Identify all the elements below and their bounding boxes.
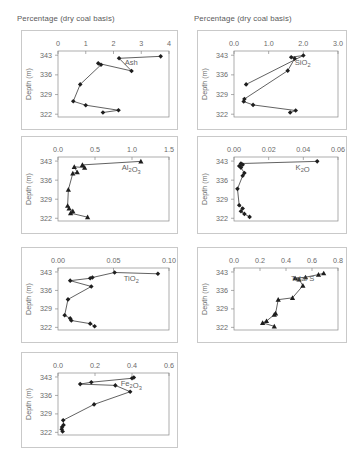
x-tick-label: 0.5 [90, 145, 100, 154]
y-tick-label: 336 [40, 176, 52, 185]
y-tick-label: 343 [40, 157, 52, 166]
x-tick-label: 0.04 [296, 145, 310, 154]
y-axis-title: Depth (m) [24, 388, 33, 420]
data-point [101, 110, 106, 115]
chart-panel-fe2o3: 0.00.20.40.6322329336343Depth (m)Fe2O3 [21, 352, 178, 448]
column-header-right: Percentage (dry coal basis) [194, 14, 292, 23]
data-point [315, 159, 320, 164]
chart-panel-ash: 01234322329336343Depth (m)Ash [21, 30, 178, 130]
chart-svg-al2o3: 0.00.51.01.5322329336343Depth (m)Al2O3 [22, 137, 177, 233]
y-tick-label: 343 [40, 51, 52, 60]
data-point [156, 272, 161, 277]
data-point [158, 54, 163, 59]
chart-svg-ash: 01234322329336343Depth (m)Ash [22, 31, 177, 129]
column-header-left: Percentage (dry coal basis) [17, 14, 115, 23]
y-axis-title: Depth (m) [200, 68, 209, 100]
y-axis-title: Depth (m) [200, 173, 209, 205]
data-point [89, 284, 94, 289]
y-tick-label: 329 [40, 304, 52, 313]
y-tick-label: 329 [216, 304, 228, 313]
y-tick-label: 343 [216, 51, 228, 60]
x-tick-label: 2.0 [298, 39, 308, 48]
y-tick-label: 343 [216, 268, 228, 277]
chart-panel-k2o: 0.000.020.040.06322329336343Depth (m)K2O [197, 136, 347, 234]
data-point [75, 170, 80, 175]
data-point [68, 278, 73, 283]
x-tick-label: 1.0 [264, 39, 274, 48]
data-point [92, 324, 97, 329]
data-point [235, 187, 240, 192]
chart-svg-total-s: 0.00.20.40.60.8322329336343Depth (m)Tota… [198, 248, 346, 342]
x-tick-label: 4 [167, 39, 171, 48]
series-label-tio2: TiO2 [124, 274, 139, 284]
data-point [66, 297, 71, 302]
y-tick-label: 336 [216, 286, 228, 295]
x-tick-label: 0.0 [53, 361, 63, 370]
y-tick-label: 336 [40, 286, 52, 295]
y-tick-label: 329 [40, 409, 52, 418]
data-point [83, 103, 88, 108]
x-tick-label: 0.0 [229, 39, 239, 48]
data-point [251, 103, 256, 108]
y-tick-label: 322 [40, 428, 52, 437]
y-tick-label: 336 [216, 176, 228, 185]
y-tick-label: 329 [40, 195, 52, 204]
y-tick-label: 336 [40, 70, 52, 79]
x-tick-label: 0.2 [255, 256, 265, 265]
data-point [112, 270, 117, 275]
y-tick-label: 322 [216, 323, 228, 332]
x-tick-label: 3 [139, 39, 143, 48]
x-tick-label: 0.06 [331, 145, 345, 154]
chart-svg-fe2o3: 0.00.20.40.6322329336343Depth (m)Fe2O3 [22, 353, 177, 447]
data-point [88, 321, 93, 326]
x-tick-label: 0.10 [162, 256, 176, 265]
series-label-k2o: K2O [296, 163, 310, 174]
data-point [293, 108, 298, 113]
data-point [285, 68, 290, 73]
y-tick-label: 322 [40, 110, 52, 119]
x-tick-label: 1.5 [164, 145, 174, 154]
chart-panel-total-s: 0.00.20.40.60.8322329336343Depth (m)Tota… [197, 247, 347, 343]
data-point [321, 271, 326, 276]
data-point [78, 382, 83, 387]
x-tick-label: 0.02 [262, 145, 276, 154]
x-tick-label: 0.00 [51, 256, 65, 265]
y-tick-label: 329 [40, 90, 52, 99]
y-tick-label: 329 [216, 90, 228, 99]
x-tick-label: 0.05 [107, 256, 121, 265]
series-label-ash: Ash [125, 58, 138, 67]
chart-panel-tio2: 0.000.050.10322329336343Depth (m)TiO2 [21, 247, 178, 343]
data-point [65, 203, 70, 208]
x-tick-label: 0.0 [53, 145, 63, 154]
data-markers [62, 270, 160, 328]
y-axis-title: Depth (m) [200, 283, 209, 315]
y-axis-title: Depth (m) [24, 68, 33, 100]
x-tick-label: 0.4 [127, 361, 137, 370]
x-tick-label: 0.6 [307, 256, 317, 265]
data-point [128, 389, 133, 394]
y-tick-label: 336 [40, 391, 52, 400]
figure-root: Percentage (dry coal basis) Percentage (… [0, 0, 355, 465]
data-point [116, 108, 121, 113]
y-tick-label: 322 [216, 214, 228, 223]
data-point [288, 110, 293, 115]
chart-svg-tio2: 0.000.050.10322329336343Depth (m)TiO2 [22, 248, 177, 342]
series-label-total-s: Total S [291, 274, 314, 283]
chart-svg-k2o: 0.000.020.040.06322329336343Depth (m)K2O [198, 137, 346, 233]
series-label-al2o3: Al2O3 [122, 163, 141, 175]
x-tick-label: 0.8 [333, 256, 343, 265]
x-tick-label: 0.00 [227, 145, 241, 154]
x-tick-label: 3.0 [333, 39, 343, 48]
y-tick-label: 343 [40, 373, 52, 382]
data-point [66, 187, 71, 192]
data-point [89, 380, 94, 385]
data-point [71, 99, 76, 104]
x-tick-label: 2 [112, 39, 116, 48]
y-axis-title: Depth (m) [24, 173, 33, 205]
data-point [62, 313, 67, 318]
x-tick-label: 1.0 [127, 145, 137, 154]
y-tick-label: 329 [216, 195, 228, 204]
y-tick-label: 343 [40, 268, 52, 277]
y-tick-label: 322 [40, 214, 52, 223]
data-point [300, 283, 305, 288]
